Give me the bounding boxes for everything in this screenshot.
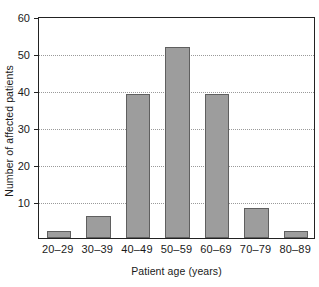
y-tick-label-30: 30 bbox=[6, 123, 30, 135]
x-tick-label-80-89: 80–89 bbox=[275, 243, 315, 255]
x-tick-label-50-59: 50–59 bbox=[157, 243, 197, 255]
bar-40-49 bbox=[126, 94, 151, 238]
y-tick-label-60: 60 bbox=[6, 12, 30, 24]
bar-60-69 bbox=[205, 94, 230, 238]
bar-50-59 bbox=[165, 47, 190, 238]
x-axis-title: Patient age (years) bbox=[38, 265, 315, 277]
y-tick-label-20: 20 bbox=[6, 160, 30, 172]
x-tick-label-60-69: 60–69 bbox=[196, 243, 236, 255]
y-tick-label-10: 10 bbox=[6, 197, 30, 209]
x-tick-label-70-79: 70–79 bbox=[236, 243, 276, 255]
bar-80-89 bbox=[284, 231, 309, 238]
plot-area: 102030405060 bbox=[38, 17, 315, 239]
y-tick-label-40: 40 bbox=[6, 86, 30, 98]
histogram-figure: Number of affected patients 102030405060… bbox=[0, 0, 319, 287]
bar-series bbox=[39, 18, 314, 238]
bar-30-39 bbox=[86, 216, 111, 238]
bar-70-79 bbox=[244, 208, 269, 238]
y-tick-label-50: 50 bbox=[6, 49, 30, 61]
x-tick-label-30-39: 30–39 bbox=[78, 243, 118, 255]
x-tick-label-40-49: 40–49 bbox=[117, 243, 157, 255]
bar-20-29 bbox=[47, 231, 72, 238]
x-tick-label-20-29: 20–29 bbox=[38, 243, 78, 255]
